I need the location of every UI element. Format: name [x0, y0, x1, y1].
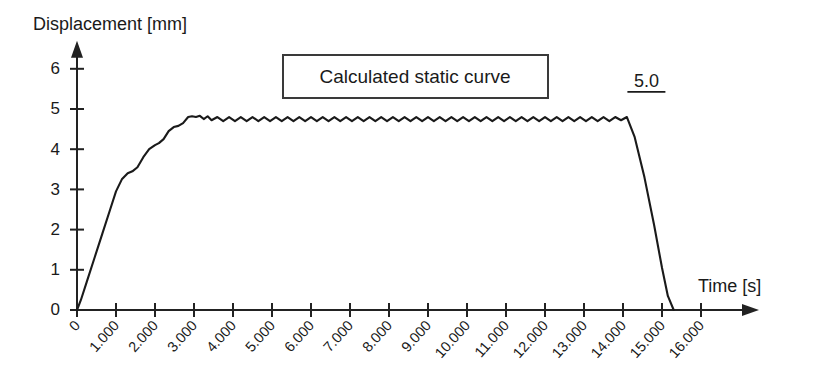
y-axis-tick-labels: 0123456: [51, 59, 60, 319]
x-tick-label: 7.000: [320, 317, 356, 355]
x-tick-label: 5.000: [242, 317, 278, 355]
y-axis-group: 0123456: [51, 41, 84, 320]
x-tick-label: 2.000: [125, 317, 161, 355]
x-axis-title: Time [s]: [698, 276, 761, 296]
legend: Calculated static curve: [283, 55, 548, 98]
annotation-label: 5.0: [634, 71, 659, 91]
annotation-5-0: 5.0: [627, 71, 665, 92]
x-tick-label: 15.000: [627, 317, 669, 361]
x-tick-label: 1.000: [86, 317, 122, 355]
x-tick-label: 8.000: [359, 317, 395, 355]
x-tick-label: 4.000: [203, 317, 239, 355]
chart-container: 0123456 01.0002.0003.0004.0005.0006.0007…: [0, 0, 813, 386]
y-tick-label: 6: [51, 59, 60, 78]
x-tick-label: 6.000: [281, 317, 317, 355]
x-axis-tick-labels: 01.0002.0003.0004.0005.0006.0007.0008.00…: [66, 317, 707, 361]
x-tick-label: 10.000: [432, 317, 474, 361]
y-axis-arrowhead: [71, 41, 83, 58]
x-tick-label: 3.000: [164, 317, 200, 355]
calculated-static-curve-line: [77, 116, 674, 310]
x-tick-label: 9.000: [398, 317, 434, 355]
x-tick-label: 14.000: [588, 317, 630, 361]
y-tick-label: 4: [51, 140, 60, 159]
y-tick-label: 5: [51, 99, 60, 118]
displacement-time-chart: 0123456 01.0002.0003.0004.0005.0006.0007…: [0, 0, 813, 386]
x-tick-label: 13.000: [549, 317, 591, 361]
x-axis-group: 01.0002.0003.0004.0005.0006.0007.0008.00…: [66, 303, 759, 361]
y-tick-label: 3: [51, 180, 60, 199]
x-tick-label: 16.000: [666, 317, 708, 361]
y-tick-label: 1: [51, 260, 60, 279]
x-axis-arrowhead: [742, 304, 759, 316]
x-tick-label: 0: [66, 317, 83, 334]
legend-label: Calculated static curve: [319, 66, 510, 87]
y-tick-label: 0: [51, 300, 60, 319]
y-tick-label: 2: [51, 220, 60, 239]
x-tick-label: 12.000: [510, 317, 552, 361]
x-tick-label: 11.000: [471, 317, 512, 360]
y-axis-title: Displacement [mm]: [33, 14, 187, 34]
